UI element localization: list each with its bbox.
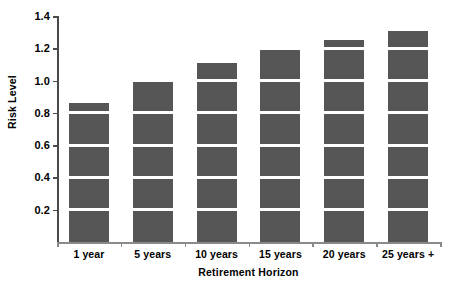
x-axis-tick-mark [312,242,314,247]
bar[interactable] [260,50,300,242]
bar-segment-separator [133,208,173,211]
x-axis-tick-label: 25 years + [382,248,434,260]
bar-segment-separator [133,111,173,114]
bar[interactable] [69,103,109,242]
y-axis-tick-label: 1.2 [20,42,50,54]
bar-segment-separator [324,144,364,147]
y-axis-tick-label: 0.8 [20,107,50,119]
bar-segment-separator [197,79,237,82]
x-axis-tick-mark [57,242,59,247]
x-axis-tick-label: 20 years [323,248,366,260]
bar-segment-separator [69,144,109,147]
bar[interactable] [133,82,173,242]
x-axis-tick-label: 15 years [259,248,302,260]
bar-chart: Risk Level 0.20.40.60.81.01.21.4 1 year5… [0,0,453,288]
x-axis-tick-label: 5 years [134,248,171,260]
bar-segment-separator [197,144,237,147]
bar-segment-separator [324,176,364,179]
y-axis-tick-label: 0.4 [20,171,50,183]
bar-segment-separator [260,144,300,147]
bar-segment-separator [197,208,237,211]
bar-segment-separator [69,176,109,179]
bar-segment-separator [197,111,237,114]
bar-segment-separator [388,176,428,179]
bar-segment-separator [388,208,428,211]
bar-segment-separator [388,47,428,50]
bar-segment-separator [133,144,173,147]
y-axis-tick-label: 0.6 [20,139,50,151]
x-axis-tick-label: 10 years [195,248,238,260]
bar-segment-separator [388,111,428,114]
bar-segment-separator [69,208,109,211]
bar-segment-separator [197,176,237,179]
bar[interactable] [197,63,237,242]
x-axis-tick-mark [249,242,251,247]
plot-area [57,16,440,242]
bar-segment-separator [260,176,300,179]
bar-segment-separator [324,47,364,50]
x-axis-tick-mark [440,242,442,247]
x-axis-title: Retirement Horizon [57,266,440,278]
bars-layer [57,16,440,242]
bar[interactable] [388,31,428,242]
bar[interactable] [324,40,364,242]
y-axis-tick-label: 1.4 [20,10,50,22]
bar-segment-separator [260,111,300,114]
x-axis-tick-mark [376,242,378,247]
y-axis-title: Risk Level [6,52,18,152]
bar-segment-separator [324,79,364,82]
y-axis-tick-label: 1.0 [20,75,50,87]
bar-segment-separator [260,79,300,82]
x-axis-tick-mark [185,242,187,247]
bar-segment-separator [388,144,428,147]
bar-segment-separator [69,111,109,114]
x-axis-tick-label: 1 year [73,248,104,260]
bar-segment-separator [388,79,428,82]
x-axis-tick-labels: 1 year5 years10 years15 years20 years25 … [57,248,440,264]
bar-segment-separator [324,111,364,114]
y-axis-tick-label: 0.2 [20,204,50,216]
y-axis-tick-labels: 0.20.40.60.81.01.21.4 [20,0,50,288]
x-axis-tick-mark [121,242,123,247]
bar-segment-separator [133,176,173,179]
bar-segment-separator [260,208,300,211]
bar-segment-separator [324,208,364,211]
